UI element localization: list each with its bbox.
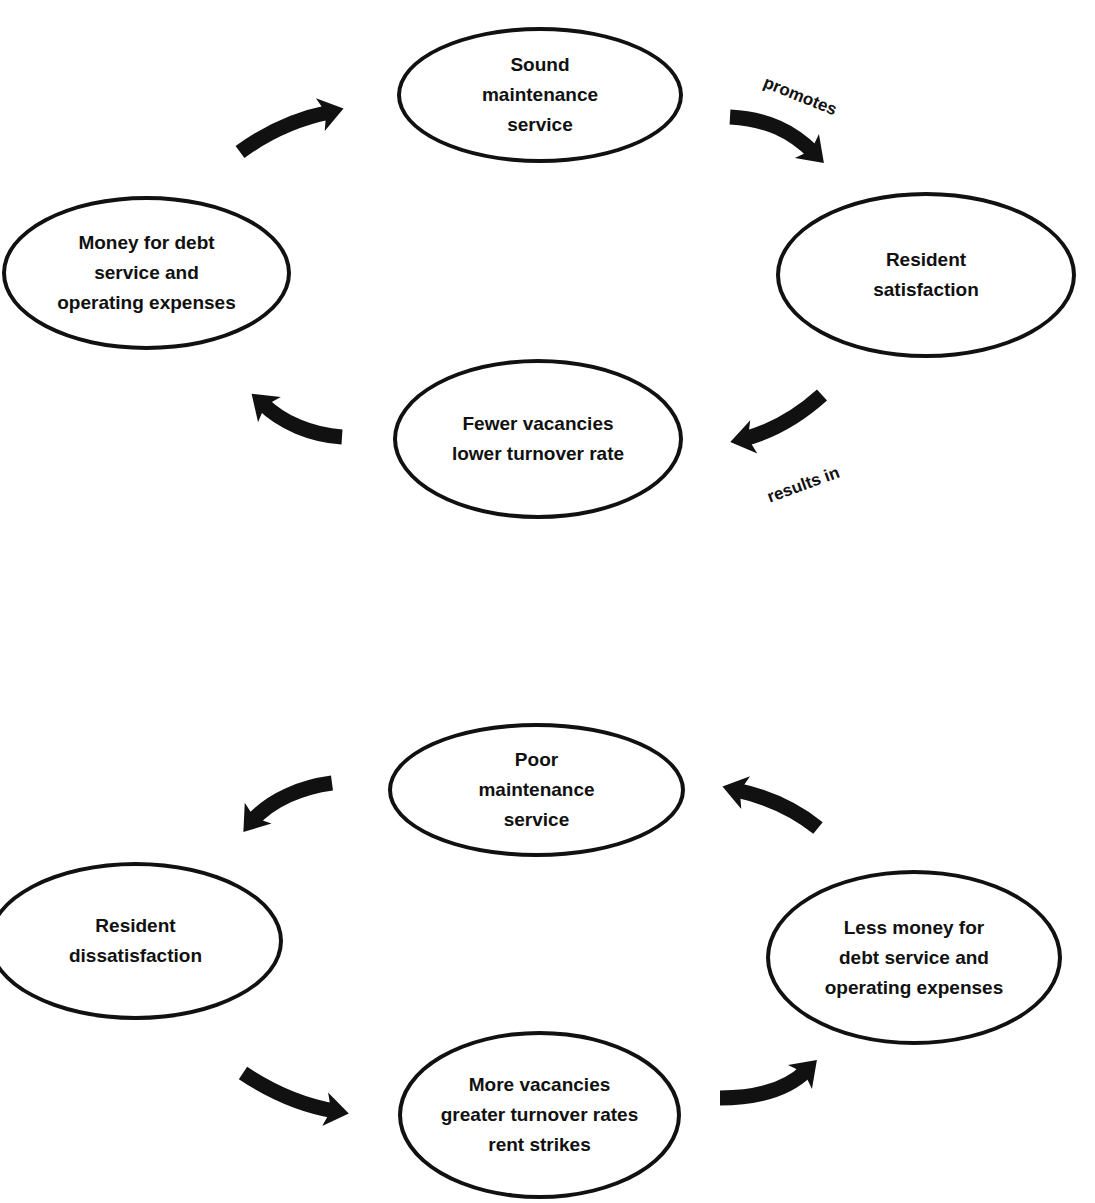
node-label: Resident satisfaction [873, 245, 979, 305]
curved-arrow-down-left-icon [722, 385, 842, 465]
node-label: Sound maintenance service [482, 50, 598, 140]
node-label: Fewer vacancies lower turnover rate [452, 409, 624, 469]
node-label: Money for debt service and operating exp… [57, 228, 235, 318]
node-label: Poor maintenance service [478, 745, 594, 835]
node-label: More vacancies greater turnover rates re… [441, 1070, 638, 1160]
curved-arrow-up-left-icon [242, 385, 362, 465]
curved-arrow-down-left-icon [232, 765, 352, 845]
node-poor-maintenance: Poor maintenance service [388, 723, 685, 857]
node-money-for-debt: Money for debt service and operating exp… [2, 196, 291, 350]
node-resident-dissatisfaction: Resident dissatisfaction [0, 862, 283, 1020]
diagram-canvas: Sound maintenance service Resident satis… [0, 0, 1095, 1203]
node-label: Resident dissatisfaction [69, 911, 202, 971]
curved-arrow-up-right-icon [230, 90, 350, 170]
curved-arrow-up-right-icon [712, 1050, 832, 1130]
curved-arrow-up-left-icon [718, 770, 838, 850]
curved-arrow-down-right-icon [722, 105, 842, 185]
node-less-money: Less money for debt service and operatin… [766, 870, 1062, 1045]
node-fewer-vacancies: Fewer vacancies lower turnover rate [393, 359, 683, 519]
edge-label-results-in: results in [765, 463, 843, 508]
curved-arrow-down-right-icon [235, 1063, 355, 1143]
node-sound-maintenance: Sound maintenance service [397, 27, 683, 163]
node-label: Less money for debt service and operatin… [825, 913, 1003, 1003]
node-more-vacancies: More vacancies greater turnover rates re… [398, 1031, 681, 1199]
node-resident-satisfaction: Resident satisfaction [776, 192, 1076, 358]
